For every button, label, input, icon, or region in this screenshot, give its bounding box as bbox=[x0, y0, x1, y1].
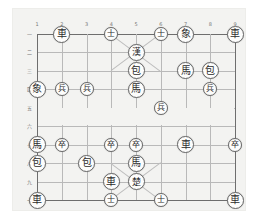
rank-label-9: 九 bbox=[25, 179, 34, 186]
piece-advisor[interactable]: 士 bbox=[154, 193, 168, 207]
piece-horse[interactable]: 馬 bbox=[128, 81, 145, 98]
piece-soldier[interactable]: 卒 bbox=[129, 138, 143, 152]
rank-line bbox=[37, 200, 235, 201]
rank-label-2: 二 bbox=[25, 49, 34, 56]
file-label-3: 3 bbox=[80, 21, 94, 28]
piece-soldier[interactable]: 兵 bbox=[154, 101, 168, 115]
file-label-1: 1 bbox=[30, 21, 44, 28]
rank-label-1: 一 bbox=[25, 31, 34, 38]
piece-soldier[interactable]: 卒 bbox=[55, 138, 69, 152]
piece-cannon[interactable]: 包 bbox=[128, 62, 145, 79]
river-gap bbox=[38, 108, 234, 125]
piece-chariot[interactable]: 車 bbox=[29, 192, 46, 209]
piece-chariot[interactable]: 車 bbox=[227, 192, 244, 209]
file-label-8: 8 bbox=[203, 21, 217, 28]
rank-label-3: 三 bbox=[25, 68, 34, 75]
piece-soldier[interactable]: 卒 bbox=[104, 138, 118, 152]
piece-soldier[interactable]: 兵 bbox=[80, 82, 94, 96]
piece-horse[interactable]: 馬 bbox=[29, 136, 46, 153]
file-label-5: 5 bbox=[129, 21, 143, 28]
piece-cannon[interactable]: 包 bbox=[202, 62, 219, 79]
piece-advisor[interactable]: 士 bbox=[154, 27, 168, 41]
piece-chariot[interactable]: 車 bbox=[53, 26, 70, 43]
piece-chariot[interactable]: 車 bbox=[227, 26, 244, 43]
board-panel: 123456789 一二三四五六七八九十 車士士象車漢包馬包象兵兵馬兵兵馬卒卒卒… bbox=[13, 9, 245, 210]
rank-label-6: 六 bbox=[25, 123, 34, 130]
xiangqi-board[interactable]: 123456789 一二三四五六七八九十 車士士象車漢包馬包象兵兵馬兵兵馬卒卒卒… bbox=[37, 34, 235, 200]
piece-chariot[interactable]: 車 bbox=[177, 136, 194, 153]
piece-horse[interactable]: 馬 bbox=[177, 62, 194, 79]
piece-soldier[interactable]: 兵 bbox=[55, 82, 69, 96]
piece-soldier[interactable]: 卒 bbox=[228, 138, 242, 152]
piece-general-chu[interactable]: 楚 bbox=[128, 173, 145, 190]
piece-cannon[interactable]: 包 bbox=[29, 155, 46, 172]
piece-chariot[interactable]: 車 bbox=[103, 173, 120, 190]
piece-cannon[interactable]: 包 bbox=[78, 155, 95, 172]
piece-advisor[interactable]: 士 bbox=[104, 193, 118, 207]
piece-general-han[interactable]: 漢 bbox=[128, 44, 145, 61]
piece-elephant[interactable]: 象 bbox=[177, 26, 194, 43]
xiangqi-screenshot: 123456789 一二三四五六七八九十 車士士象車漢包馬包象兵兵馬兵兵馬卒卒卒… bbox=[0, 0, 258, 219]
rank-label-5: 五 bbox=[25, 105, 34, 112]
piece-soldier[interactable]: 兵 bbox=[203, 82, 217, 96]
piece-horse[interactable]: 馬 bbox=[128, 155, 145, 172]
piece-elephant[interactable]: 象 bbox=[29, 81, 46, 98]
file-line bbox=[235, 34, 236, 200]
